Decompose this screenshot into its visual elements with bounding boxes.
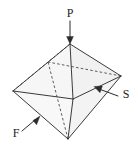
face-top-left-front <box>13 44 73 99</box>
p-arrow-head <box>67 37 74 45</box>
octahedron-drawing: P S F <box>0 0 138 150</box>
octahedron-figure: P S F <box>0 0 138 150</box>
label-p: P <box>67 6 74 20</box>
f-leader-line <box>22 120 35 131</box>
f-arrow-head <box>33 116 40 125</box>
label-f: F <box>13 126 20 140</box>
label-s: S <box>123 87 130 101</box>
